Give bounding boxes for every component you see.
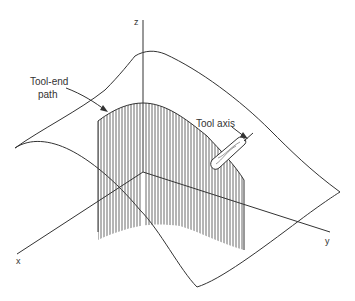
coordinate-axes — [17, 20, 330, 254]
x-axis-label: x — [16, 256, 21, 266]
x-axis — [17, 172, 143, 254]
tool-end-path-curve — [98, 103, 244, 180]
tool-axis-label: Tool axis — [196, 118, 235, 129]
tool-end-path-label-line1: Tool-end — [30, 76, 68, 87]
z-axis-label: z — [134, 17, 139, 27]
y-axis-label: y — [325, 236, 330, 246]
label-arrows — [66, 88, 248, 139]
machining-diagram: Tool-end path Tool axis z x y — [0, 0, 355, 301]
y-axis — [143, 172, 330, 232]
tool-end-path-hatch — [98, 90, 242, 260]
tool-end-path-label-line2: path — [38, 89, 57, 100]
